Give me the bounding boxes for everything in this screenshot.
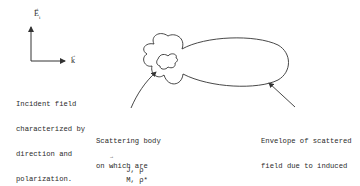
m-vector-arrow-icon: → — [110, 163, 113, 171]
j-vector-arrow-icon: → — [110, 153, 113, 161]
envelope-description: Envelope of scattered field due to induc… — [261, 120, 352, 186]
scattered-field-main-lobe — [182, 38, 289, 86]
magnetic-sources-label: M, ρ* — [109, 168, 148, 186]
e-field-label: Ei — [34, 10, 40, 22]
scattering-body-shape — [157, 54, 178, 69]
incident-field-description: Incident field characterized by directio… — [16, 83, 85, 186]
envelope-pointer — [269, 83, 295, 107]
scattering-body-pointer — [131, 72, 156, 108]
k-vector-label: k — [71, 57, 75, 65]
incident-axes — [31, 27, 65, 61]
scattering-diagram: Ei k Incident field characterized by dir… — [0, 0, 360, 186]
